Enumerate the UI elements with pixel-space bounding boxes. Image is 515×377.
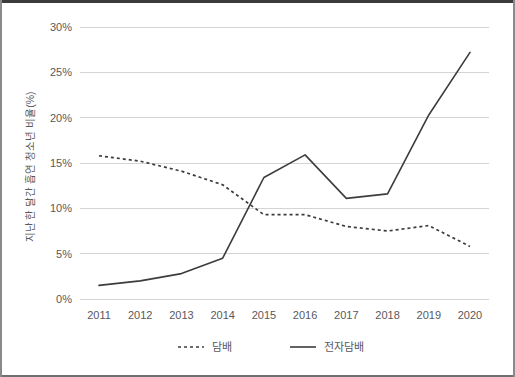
- x-axis-tick-labels: 2011201220132014201520162017201820192020: [87, 309, 482, 321]
- x-axis-tick-label: 2018: [375, 309, 399, 321]
- y-axis-title: 지난 한 달간 흡연 청소년 비율(%): [24, 92, 36, 243]
- x-axis-tick-label: 2015: [252, 309, 276, 321]
- y-axis-tick-labels: 0%5%10%15%20%25%30%: [50, 21, 72, 305]
- x-axis-tick-label: 2014: [210, 309, 234, 321]
- legend-label: 담배: [212, 341, 232, 353]
- series-line-cigarette: [99, 156, 470, 247]
- chart-legend: 담배전자담배: [178, 341, 364, 353]
- line-chart-plot: 0%5%10%15%20%25%30% 20112012201320142015…: [0, 0, 515, 377]
- y-axis-tick-label: 30%: [50, 21, 72, 33]
- chart-figure: 0%5%10%15%20%25%30% 20112012201320142015…: [0, 0, 515, 377]
- x-axis-tick-label: 2020: [458, 309, 482, 321]
- series-line-ecigarette: [99, 52, 470, 285]
- x-axis-tick-label: 2013: [169, 309, 193, 321]
- y-axis-tick-label: 20%: [50, 112, 72, 124]
- y-axis-tick-label: 10%: [50, 202, 72, 214]
- y-axis-tick-label: 0%: [56, 293, 72, 305]
- y-axis-tick-label: 25%: [50, 66, 72, 78]
- x-axis-tick-label: 2016: [293, 309, 317, 321]
- x-axis-tick-label: 2011: [87, 309, 111, 321]
- y-axis-tick-label: 15%: [50, 157, 72, 169]
- gridlines-group: [80, 27, 489, 299]
- x-axis-tick-label: 2012: [128, 309, 152, 321]
- y-axis-tick-label: 5%: [56, 248, 72, 260]
- x-axis-tick-label: 2017: [334, 309, 358, 321]
- x-axis-tick-label: 2019: [417, 309, 441, 321]
- legend-label: 전자담배: [324, 341, 364, 353]
